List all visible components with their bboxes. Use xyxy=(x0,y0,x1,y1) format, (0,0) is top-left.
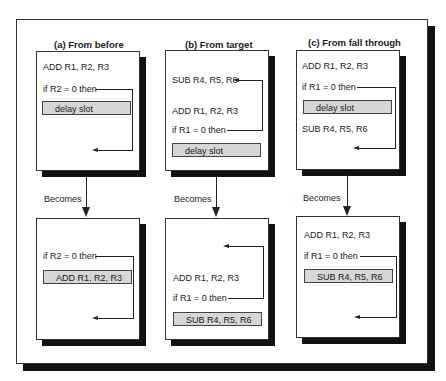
branch-line xyxy=(360,256,396,257)
branch-line xyxy=(262,80,263,131)
becomes-line xyxy=(86,176,87,208)
branch-line xyxy=(357,87,395,88)
becomes-line xyxy=(216,176,217,208)
filled-slot: SUB R4, R5, R6 xyxy=(173,312,262,326)
arrow-left-icon xyxy=(354,315,360,319)
branch-line xyxy=(132,89,133,151)
code-line: if R1 = 0 then xyxy=(172,125,226,135)
branch-line xyxy=(229,246,264,247)
code-line: if R1 = 0 then xyxy=(304,251,358,261)
arrow-left-icon xyxy=(223,244,229,248)
code-line: SUB R4, R5, R6 xyxy=(172,75,238,85)
code-line: if R2 = 0 then xyxy=(43,251,97,261)
branch-line xyxy=(98,318,134,319)
becomes-label: Becomes xyxy=(44,194,82,204)
branch-line xyxy=(238,80,263,81)
code-line: ADD R1, R2, R3 xyxy=(302,61,368,71)
panel-b-title: (b) From target xyxy=(185,39,253,50)
branch-line xyxy=(95,256,134,257)
branch-line xyxy=(395,87,396,149)
branch-line xyxy=(227,130,263,131)
code-line: ADD R1, R2, R3 xyxy=(304,230,370,240)
arrow-left-icon xyxy=(92,316,98,320)
code-line: if R2 = 0 then xyxy=(43,84,97,94)
arrow-left-icon xyxy=(233,78,239,82)
code-line: if R1 = 0 then xyxy=(173,293,227,303)
filled-slot: SUB R4, R5, R6 xyxy=(304,269,393,283)
code-line: ADD R1, R2, R3 xyxy=(172,106,238,116)
branch-line xyxy=(133,256,134,319)
panel-c-title: (c) From fall through xyxy=(308,37,401,48)
branch-line xyxy=(263,246,264,299)
code-line: ADD R1, R2, R3 xyxy=(43,62,109,72)
branch-line xyxy=(95,89,133,90)
code-line: ADD R1, R2, R3 xyxy=(173,273,239,283)
arrow-left-icon xyxy=(353,146,359,150)
becomes-line xyxy=(347,175,348,207)
branch-line xyxy=(360,317,397,318)
code-line: SUB R4, R5, R6 xyxy=(302,124,368,134)
delay-slot: delay slot xyxy=(303,100,392,114)
code-line: if R1 = 0 then xyxy=(302,82,356,92)
arrow-down-icon xyxy=(82,207,90,217)
becomes-label: Becomes xyxy=(174,194,212,204)
delay-slot: delay slot xyxy=(172,143,261,157)
branch-line xyxy=(396,256,397,318)
arrow-down-icon xyxy=(212,207,220,217)
panel-a-title: (a) From before xyxy=(54,39,124,50)
branch-line xyxy=(228,298,264,299)
branch-line xyxy=(98,150,133,151)
arrow-left-icon xyxy=(92,148,98,152)
becomes-label: Becomes xyxy=(303,193,341,203)
filled-slot: ADD R1, R2, R3 xyxy=(43,270,132,284)
delay-slot: delay slot xyxy=(42,101,131,115)
arrow-down-icon xyxy=(343,206,351,216)
branch-line xyxy=(359,148,396,149)
